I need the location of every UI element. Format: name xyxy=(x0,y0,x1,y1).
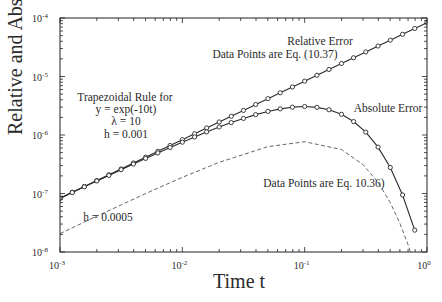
data-point-marker xyxy=(278,107,282,111)
data-point-marker xyxy=(229,120,233,124)
data-point-marker xyxy=(266,109,270,113)
y-tick-label: 10-8 xyxy=(32,246,48,258)
data-point-marker xyxy=(168,145,172,149)
data-point-marker xyxy=(95,179,99,183)
x-tick-label: 100 xyxy=(417,259,431,271)
annotation-label: Relative Error xyxy=(287,35,353,47)
data-point-marker xyxy=(351,119,355,123)
data-point-marker xyxy=(205,130,209,134)
x-tick-label: 10-3 xyxy=(49,259,65,271)
data-point-marker xyxy=(290,105,294,109)
data-point-marker xyxy=(351,56,355,60)
x-tick-label: 10-1 xyxy=(294,259,310,271)
data-point-marker xyxy=(193,135,197,139)
data-point-marker xyxy=(303,79,307,83)
x-axis-label: Time t xyxy=(213,270,265,293)
annotation-label: Data Points are Eq. (10.37) xyxy=(212,48,337,61)
data-point-marker xyxy=(400,193,404,197)
data-point-marker xyxy=(70,190,74,194)
data-point-marker xyxy=(229,114,233,118)
data-point-marker xyxy=(413,26,417,30)
data-point-marker xyxy=(217,125,221,129)
data-point-marker xyxy=(131,162,135,166)
data-point-marker xyxy=(290,85,294,89)
annotation-label: Absolute Error xyxy=(354,102,423,114)
data-point-marker xyxy=(376,145,380,149)
data-point-marker xyxy=(327,108,331,112)
data-point-marker xyxy=(107,173,111,177)
data-point-marker xyxy=(303,104,307,108)
data-point-marker xyxy=(327,67,331,71)
y-tick-label: 10-6 xyxy=(32,129,48,141)
error-plot: 10-310-210-110010-810-710-610-510-4 Rela… xyxy=(0,0,442,302)
data-point-marker xyxy=(119,168,123,172)
data-point-marker xyxy=(339,112,343,116)
data-point-marker xyxy=(376,44,380,48)
data-point-marker xyxy=(180,140,184,144)
annotation-label: h = 0.0005 xyxy=(83,211,133,223)
data-point-marker xyxy=(254,113,258,117)
data-point-marker xyxy=(241,116,245,120)
data-point-marker xyxy=(254,102,258,106)
data-point-marker xyxy=(388,38,392,42)
series-line-3 xyxy=(60,142,415,267)
data-point-marker xyxy=(266,97,270,101)
y-tick-label: 10-7 xyxy=(32,188,48,200)
data-point-marker xyxy=(388,165,392,169)
data-point-marker xyxy=(217,120,221,124)
y-tick-label: 10-5 xyxy=(32,71,48,83)
x-tick-label: 10-2 xyxy=(171,259,187,271)
data-point-marker xyxy=(413,228,417,232)
data-point-marker xyxy=(364,130,368,134)
data-point-marker xyxy=(315,105,319,109)
data-point-marker xyxy=(400,32,404,36)
data-point-marker xyxy=(315,73,319,77)
annotations: Relative ErrorData Points are Eq. (10.37… xyxy=(77,35,422,223)
y-axis-label: Relative and Absolute Errors xyxy=(4,0,27,135)
annotation-label: h = 0.001 xyxy=(104,128,148,140)
annotation-label: Data Points are Eq. 10.36) xyxy=(263,177,385,190)
data-point-marker xyxy=(82,185,86,189)
annotation-label: λ = 10 xyxy=(111,115,141,127)
data-point-marker xyxy=(144,156,148,160)
data-point-marker xyxy=(364,50,368,54)
data-point-marker xyxy=(339,61,343,65)
data-point-marker xyxy=(156,151,160,155)
data-point-marker xyxy=(241,108,245,112)
y-tick-label: 10-4 xyxy=(32,12,48,24)
data-point-marker xyxy=(278,91,282,95)
